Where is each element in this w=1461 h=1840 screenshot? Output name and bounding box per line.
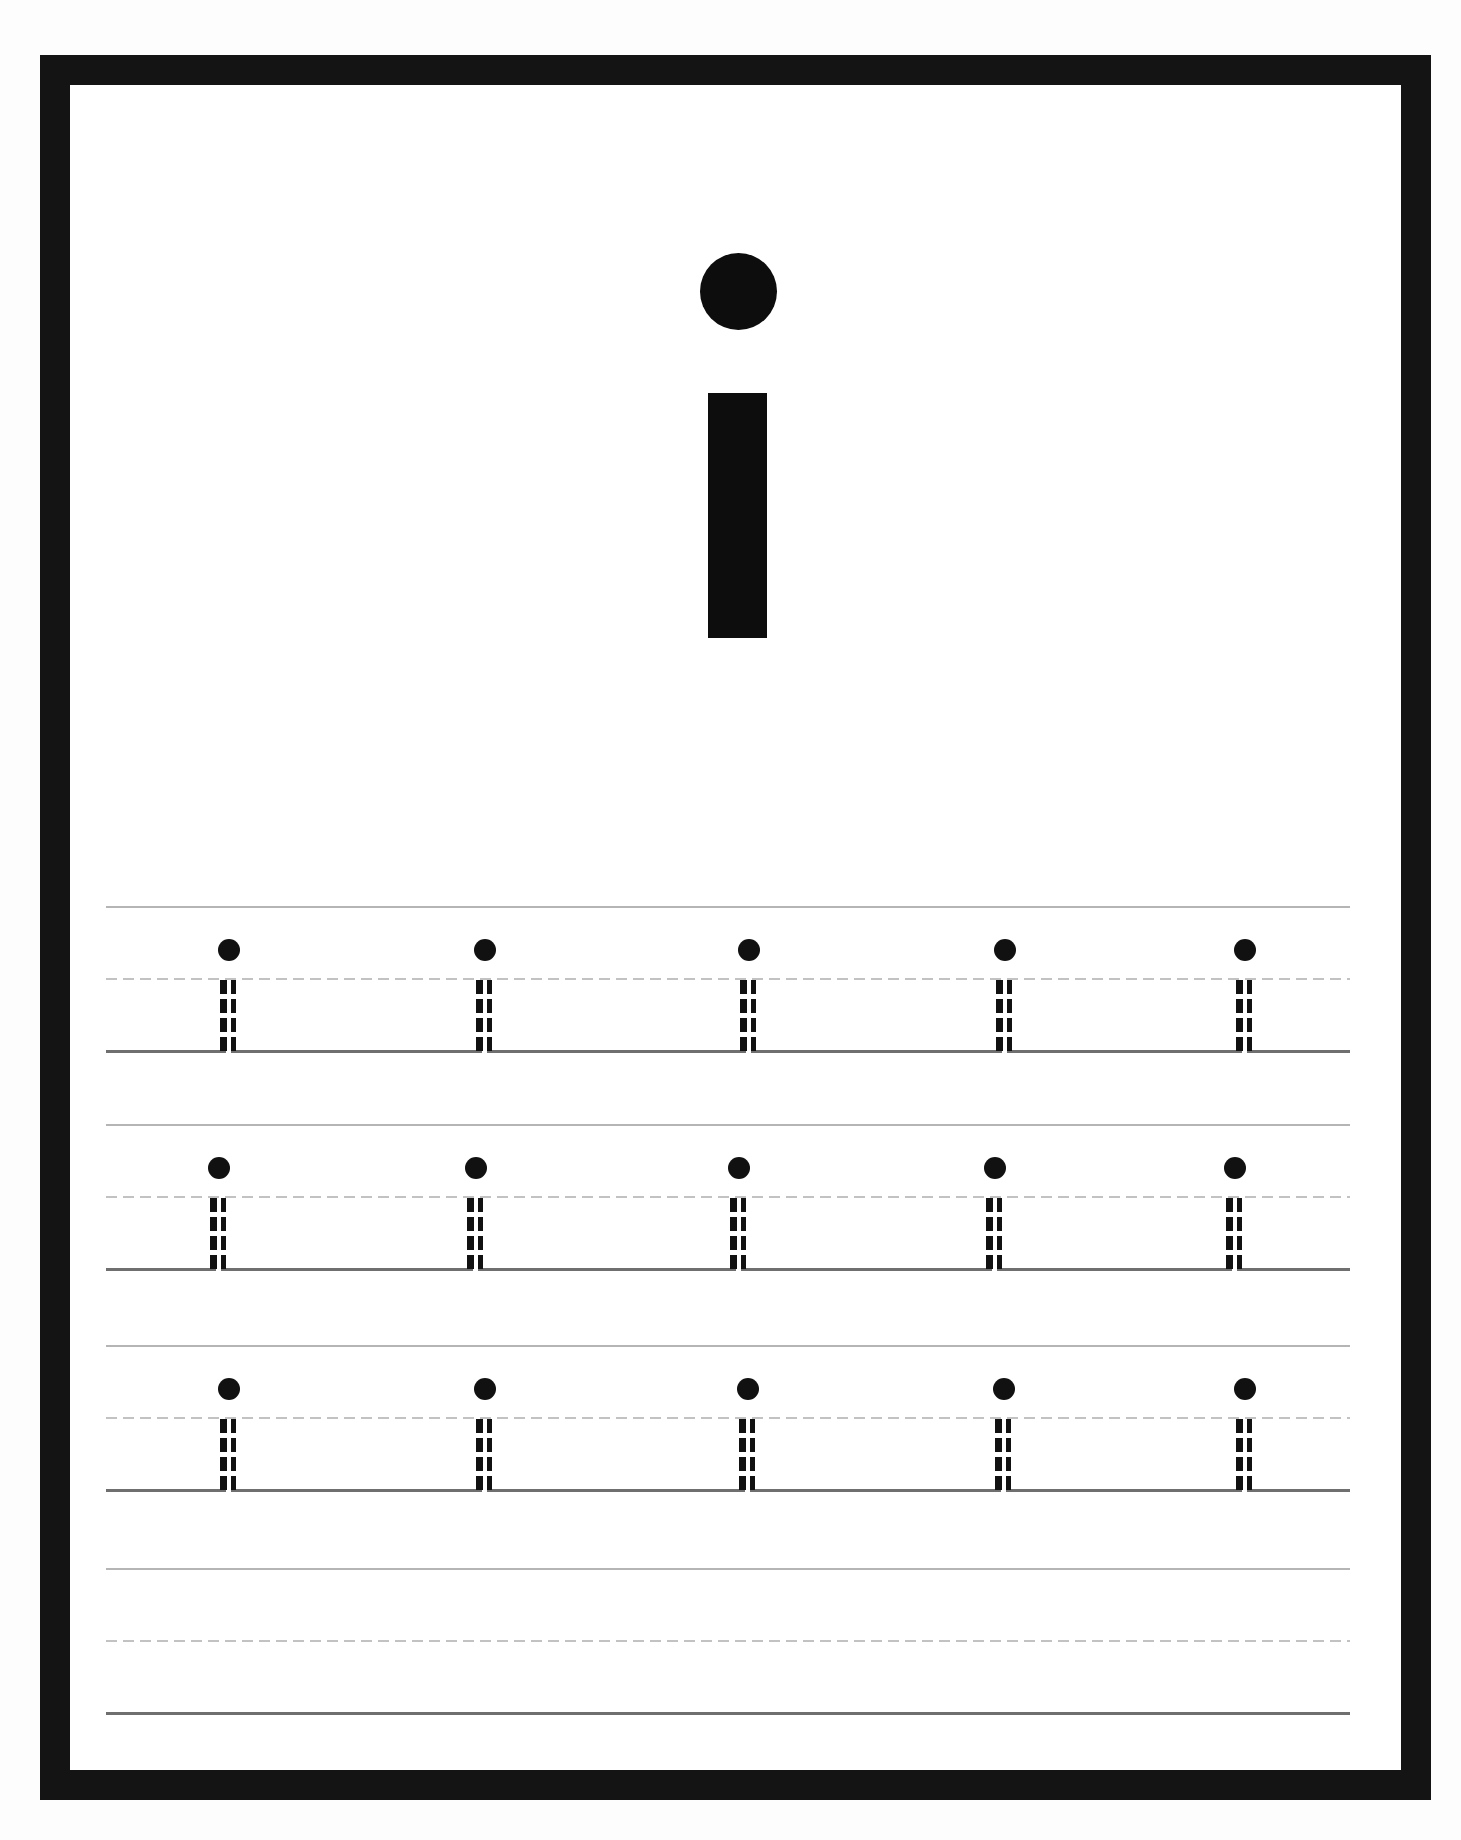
trace-letter-i-guide — [217, 1345, 241, 1495]
trace-letter-i-guide — [217, 906, 241, 1056]
trace-letter-i-guide — [473, 906, 497, 1056]
baseline — [106, 1489, 1350, 1492]
dashed-stem-left — [986, 1198, 993, 1270]
dashed-stem-right — [741, 1198, 746, 1270]
trace-letter-i-guide — [473, 1345, 497, 1495]
dashed-stem-right — [231, 980, 236, 1052]
trace-letter-i-guide — [983, 1124, 1007, 1274]
trace-dot — [738, 939, 760, 961]
dashed-stem-right — [1006, 1419, 1011, 1491]
trace-letter-i-guide — [464, 1124, 488, 1274]
dashed-stem-left — [476, 1419, 483, 1491]
practice-row-2 — [106, 1124, 1350, 1274]
dashed-stem-right — [1247, 980, 1252, 1052]
dashed-stem-right — [487, 980, 492, 1052]
top-guide-line — [106, 1345, 1350, 1347]
trace-letter-i-guide — [1233, 1345, 1257, 1495]
dashed-midline — [106, 978, 1350, 980]
dashed-stem-right — [231, 1419, 236, 1491]
trace-letter-i-guide — [737, 906, 761, 1056]
dashed-stem-right — [750, 1419, 755, 1491]
dashed-stem-left — [210, 1198, 217, 1270]
trace-dot — [218, 1378, 240, 1400]
dashed-stem-right — [1247, 1419, 1252, 1491]
trace-letter-i-guide — [207, 1124, 231, 1274]
trace-letter-i-guide — [992, 1345, 1016, 1495]
baseline — [106, 1050, 1350, 1053]
dashed-stem-right — [751, 980, 756, 1052]
trace-dot — [984, 1157, 1006, 1179]
top-guide-line — [106, 1568, 1350, 1570]
trace-letter-i-guide — [736, 1345, 760, 1495]
top-guide-line — [106, 906, 1350, 908]
dashed-stem-left — [1236, 1419, 1243, 1491]
trace-letter-i-guide — [993, 906, 1017, 1056]
practice-row-3 — [106, 1345, 1350, 1495]
trace-dot — [737, 1378, 759, 1400]
trace-dot — [994, 939, 1016, 961]
dashed-stem-left — [730, 1198, 737, 1270]
trace-dot — [474, 1378, 496, 1400]
dashed-stem-left — [1226, 1198, 1233, 1270]
practice-row-1 — [106, 906, 1350, 1056]
dashed-stem-left — [996, 980, 1003, 1052]
dashed-stem-right — [487, 1419, 492, 1491]
dashed-stem-left — [1236, 980, 1243, 1052]
dashed-stem-right — [478, 1198, 483, 1270]
trace-dot — [1234, 939, 1256, 961]
trace-letter-i-guide — [727, 1124, 751, 1274]
dashed-stem-left — [476, 980, 483, 1052]
trace-dot — [208, 1157, 230, 1179]
trace-dot — [1234, 1378, 1256, 1400]
trace-dot — [728, 1157, 750, 1179]
dashed-stem-right — [1237, 1198, 1242, 1270]
trace-dot — [993, 1378, 1015, 1400]
trace-letter-i-guide — [1233, 906, 1257, 1056]
dashed-stem-right — [221, 1198, 226, 1270]
dashed-stem-left — [220, 1419, 227, 1491]
dashed-stem-left — [995, 1419, 1002, 1491]
dashed-midline — [106, 1417, 1350, 1419]
trace-letter-i-guide — [1223, 1124, 1247, 1274]
dashed-stem-left — [467, 1198, 474, 1270]
dashed-midline — [106, 1640, 1350, 1642]
trace-dot — [465, 1157, 487, 1179]
trace-dot — [474, 939, 496, 961]
dashed-stem-right — [997, 1198, 1002, 1270]
dashed-stem-right — [1007, 980, 1012, 1052]
dashed-stem-left — [739, 1419, 746, 1491]
baseline — [106, 1712, 1350, 1715]
trace-dot — [218, 939, 240, 961]
dashed-stem-left — [740, 980, 747, 1052]
trace-dot — [1224, 1157, 1246, 1179]
dashed-stem-left — [220, 980, 227, 1052]
practice-row-4 — [106, 1568, 1350, 1718]
